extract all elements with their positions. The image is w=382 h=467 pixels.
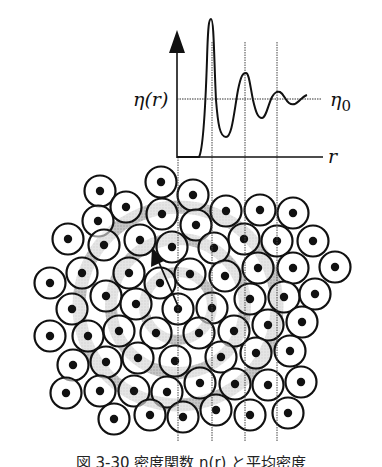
radial-distribution-figure: η(r) η0 r: [0, 0, 382, 467]
particle: [57, 294, 88, 325]
particle: [35, 321, 66, 352]
particle: [201, 395, 232, 426]
particle: [300, 279, 331, 310]
particle: [53, 224, 84, 255]
particle: [121, 289, 152, 320]
particle: [185, 368, 216, 399]
particle: [320, 252, 351, 283]
particle: [111, 192, 142, 223]
particle: [275, 336, 306, 367]
particle: [235, 400, 266, 431]
particle-cluster: [35, 167, 351, 435]
reference-label-eta0: η0: [330, 88, 351, 115]
particle: [91, 347, 122, 378]
particle: [135, 400, 166, 431]
particle: [278, 253, 309, 284]
figure-caption: 図 3-30 密度関数 η(r) と平均密度: [0, 452, 382, 467]
density-curve: [177, 19, 307, 157]
particle: [235, 284, 266, 315]
particle: [229, 224, 260, 255]
particle: [146, 167, 177, 198]
particle: [220, 369, 251, 400]
particle: [51, 378, 82, 409]
particle: [73, 321, 104, 352]
particle: [298, 226, 329, 257]
particle: [85, 376, 116, 407]
particle: [35, 268, 66, 299]
particle: [125, 225, 156, 256]
particle: [210, 261, 241, 292]
reference-label-main: η: [330, 88, 342, 110]
y-axis-label: η(r): [133, 88, 168, 110]
particle: [278, 198, 309, 229]
particle: [199, 233, 230, 264]
particle: [145, 268, 176, 299]
particle: [245, 195, 276, 226]
particle: [123, 343, 154, 374]
particle: [178, 180, 209, 211]
particle: [243, 253, 274, 284]
particle: [184, 318, 215, 349]
particle: [114, 258, 145, 289]
particle: [58, 350, 89, 381]
particle: [104, 316, 135, 347]
particle: [175, 259, 206, 290]
particle: [168, 402, 199, 433]
particle: [286, 367, 317, 398]
particle: [253, 310, 284, 341]
particle: [211, 196, 242, 227]
particle: [91, 281, 122, 312]
particle: [147, 199, 178, 230]
density-graph: [169, 19, 323, 158]
x-axis-label: r: [328, 145, 339, 167]
y-axis-arrow-icon: [169, 30, 185, 53]
particle: [287, 307, 318, 338]
particle: [160, 346, 191, 377]
particle: [89, 230, 120, 261]
reference-label-sub: 0: [341, 97, 351, 115]
particle: [253, 370, 284, 401]
particle: [99, 404, 130, 435]
particle: [67, 258, 98, 289]
